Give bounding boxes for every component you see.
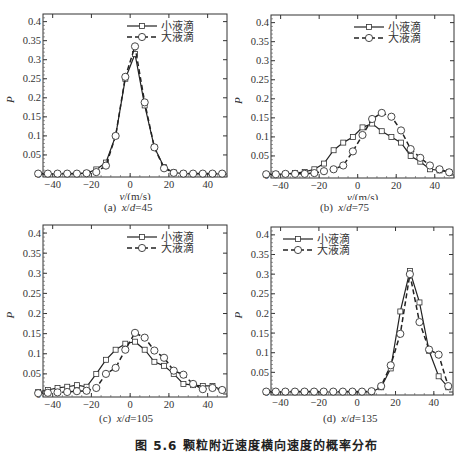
circle-marker-icon <box>160 354 167 361</box>
circle-marker-icon <box>368 388 375 395</box>
circle-marker-icon <box>301 388 308 395</box>
x-tick-label: 20 <box>164 399 175 410</box>
x-tick-label: −40 <box>44 179 60 190</box>
x-tick-label: 40 <box>429 180 440 191</box>
x-tick-label: 40 <box>429 397 440 408</box>
circle-marker-icon <box>320 388 327 395</box>
legend-square-marker-icon <box>140 235 145 240</box>
circle-marker-icon <box>426 162 433 169</box>
circle-marker-icon <box>446 169 453 176</box>
square-marker-icon <box>360 125 365 130</box>
circle-marker-icon <box>340 162 347 169</box>
y-tick-label: 0.1 <box>256 347 269 358</box>
legend: 小液滴大液滴 <box>127 19 194 43</box>
x-tick-label: −20 <box>311 397 327 408</box>
square-marker-icon <box>142 347 147 352</box>
circle-marker-icon <box>209 170 216 177</box>
y-tick-label: 0.25 <box>23 73 41 84</box>
plot-frame <box>271 15 454 178</box>
circle-marker-icon <box>170 367 177 374</box>
y-tick-label: 0.2 <box>256 308 269 319</box>
legend-label-large-droplet: 大液滴 <box>161 241 194 254</box>
y-tick-label: 0.1 <box>256 131 269 142</box>
circle-marker-icon <box>141 334 148 341</box>
chart-panel-a: 00.050.10.150.20.250.30.350.4−40−2002040… <box>0 0 235 200</box>
legend-square-marker-icon <box>367 25 372 30</box>
x-tick-label: −20 <box>83 399 99 410</box>
circle-marker-icon <box>170 169 177 176</box>
y-tick-label: 0.1 <box>28 348 41 359</box>
y-tick-label: 0.25 <box>23 288 41 299</box>
y-tick-label: 0.25 <box>251 288 269 299</box>
y-tick-label: 0.3 <box>256 269 269 280</box>
circle-marker-icon <box>263 171 270 178</box>
circle-marker-icon <box>349 148 356 155</box>
legend-circle-marker-icon <box>138 244 145 251</box>
legend: 小液滴大液滴 <box>127 230 194 254</box>
x-tick-label: −40 <box>44 399 60 410</box>
circle-marker-icon <box>180 170 187 177</box>
circle-marker-icon <box>436 166 443 173</box>
series-line-small-droplet <box>38 54 222 174</box>
circle-marker-icon <box>219 386 226 393</box>
y-tick-label: 0.3 <box>28 54 41 65</box>
circle-marker-icon <box>378 109 385 116</box>
square-marker-icon <box>321 161 326 166</box>
circle-marker-icon <box>160 165 167 172</box>
x-tick-label: −40 <box>272 180 288 191</box>
circle-marker-icon <box>35 170 42 177</box>
square-marker-icon <box>341 140 346 145</box>
circle-marker-icon <box>151 347 158 354</box>
legend-circle-marker-icon <box>138 33 145 40</box>
x-tick-label: 40 <box>202 399 213 410</box>
y-tick-label: 0.35 <box>251 249 269 260</box>
x-tick-label: −20 <box>311 180 327 191</box>
legend-circle-marker-icon <box>294 246 301 253</box>
circle-marker-icon <box>291 388 298 395</box>
circle-marker-icon <box>93 384 100 391</box>
y-tick-label: 0.05 <box>251 367 269 378</box>
square-marker-icon <box>350 134 355 139</box>
circle-marker-icon <box>272 388 279 395</box>
y-tick-label: 0.1 <box>28 130 41 141</box>
y-tick-label: 0.35 <box>23 248 41 259</box>
square-marker-icon <box>417 300 422 305</box>
square-marker-icon <box>103 357 108 362</box>
square-marker-icon <box>94 371 99 376</box>
y-tick-label: 0.15 <box>251 328 269 339</box>
circle-marker-icon <box>209 384 216 391</box>
y-tick-label: 0.3 <box>28 268 41 279</box>
y-axis-label: P <box>235 97 244 105</box>
chart-panel-c: 00.050.10.150.20.250.30.350.4−40−2002040… <box>0 211 235 411</box>
figure-caption: 图 5.6 颗粒附近速度横向速度的概率分布 <box>135 436 378 453</box>
circle-marker-icon <box>387 362 394 369</box>
chart-svg: 00.050.10.150.20.250.30.350.4−40−2002040… <box>235 0 470 200</box>
circle-marker-icon <box>73 388 80 395</box>
series-line-large-droplet <box>266 113 449 174</box>
circle-marker-icon <box>83 387 90 394</box>
circle-marker-icon <box>282 388 289 395</box>
circle-marker-icon <box>407 145 414 152</box>
circle-marker-icon <box>311 388 318 395</box>
square-marker-icon <box>331 148 336 153</box>
x-axis-label: v/(m/s) <box>346 408 378 411</box>
circle-marker-icon <box>35 390 42 397</box>
square-marker-icon <box>408 153 413 158</box>
chart-svg: 00.050.10.150.20.250.30.350.4−40−2002040… <box>235 211 470 411</box>
circle-marker-icon <box>388 113 395 120</box>
circle-marker-icon <box>151 144 158 151</box>
circle-marker-icon <box>54 170 61 177</box>
circle-marker-icon <box>397 330 404 337</box>
circle-marker-icon <box>378 383 385 390</box>
x-tick-label: −40 <box>272 397 288 408</box>
legend: 小液滴大液滴 <box>354 20 421 44</box>
y-tick-label: 0.4 <box>28 16 42 27</box>
legend: 小液滴大液滴 <box>283 232 350 256</box>
circle-marker-icon <box>131 329 138 336</box>
circle-marker-icon <box>44 389 51 396</box>
circle-marker-icon <box>54 389 61 396</box>
square-marker-icon <box>74 383 79 388</box>
circle-marker-icon <box>131 43 138 50</box>
square-marker-icon <box>398 309 403 314</box>
circle-marker-icon <box>359 131 366 138</box>
